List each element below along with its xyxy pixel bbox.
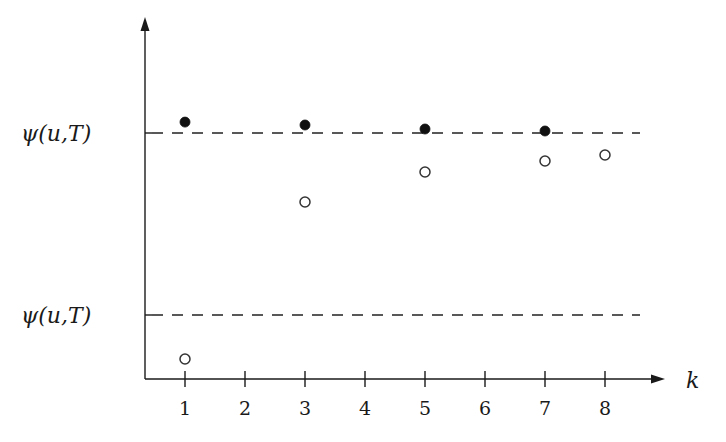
x-axis-arrow-icon: [651, 375, 665, 384]
x-tick-label: 7: [539, 397, 551, 419]
x-tick-label: 8: [599, 397, 611, 419]
x-tick-label: 2: [239, 397, 251, 419]
filled-data-point: [420, 124, 430, 134]
x-tick-label: 4: [359, 397, 371, 419]
filled-data-point: [300, 120, 310, 130]
y-axis: [141, 17, 150, 379]
chart: k 12345678 ψ(u,T) ψ(u,T): [0, 0, 726, 442]
x-tick-label: 1: [179, 397, 191, 419]
filled-data-point: [180, 117, 190, 127]
open-data-point: [600, 150, 610, 160]
y-axis-arrow-icon: [141, 17, 150, 31]
x-tick-label: 3: [299, 397, 311, 419]
lower-line-label: ψ(u,T): [21, 303, 91, 328]
x-tick-label: 6: [479, 397, 491, 419]
x-axis-label: k: [686, 368, 699, 393]
reference-lines: ψ(u,T) ψ(u,T): [21, 121, 640, 328]
open-data-point: [540, 156, 550, 166]
upper-line-label: ψ(u,T): [21, 121, 91, 146]
filled-data-point: [540, 126, 550, 136]
x-tick-label: 5: [419, 397, 431, 419]
x-axis: k: [145, 368, 699, 393]
open-data-point: [180, 354, 190, 364]
data-points: [180, 117, 610, 364]
open-data-point: [420, 167, 430, 177]
x-ticks: 12345678: [179, 371, 611, 419]
open-data-point: [300, 197, 310, 207]
